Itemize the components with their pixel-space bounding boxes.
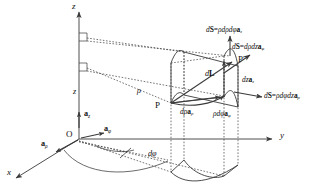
dS-phi-arrow [224, 55, 250, 73]
z-axis-label: z [72, 2, 76, 11]
dz-sub: z [252, 79, 254, 84]
rho-dphi-label: ρdφaφ [213, 110, 231, 119]
dS-phi-label: dS=dρdzaφ [232, 43, 264, 52]
rho-coordinate-label: ρ [137, 87, 141, 95]
y-axis-label: y [280, 131, 284, 140]
dS-rho-scalar: ρdφdz [276, 91, 294, 100]
z-coordinate-label: z [73, 88, 76, 96]
d-rho-sub: ρ [191, 111, 193, 116]
a-phi-vector [81, 133, 104, 138]
figure-canvas: z y x O az aφ aρ z ρ dφ P P′ dL dS=ρdρdφ… [0, 0, 319, 189]
a-z-subscript: z [88, 113, 90, 119]
dS-rho-sub: ρ [298, 95, 300, 100]
dS-z-scalar: ρdρdφ [218, 25, 237, 34]
dS-phi-sub: φ [262, 46, 265, 51]
a-rho-subscript: ρ [45, 143, 48, 149]
top-face-edge-b [171, 56, 224, 63]
point-p-label: P [155, 101, 160, 110]
base-projection-outer [184, 160, 224, 177]
x-axis-label: x [7, 168, 11, 177]
dS-phi-scalar: dρdz [244, 42, 258, 51]
rho-dphi-scalar: ρdφ [213, 109, 224, 118]
a-phi-subscript: φ [108, 128, 111, 134]
base-edge-right [224, 165, 238, 176]
dphi-label: dφ [148, 150, 157, 158]
a-z-label: az [84, 110, 90, 119]
origin-label: O [66, 130, 73, 139]
a-rho-vector [56, 140, 78, 152]
dL-label: dL [205, 70, 215, 78]
point-p-prime-label: P′ [238, 55, 245, 64]
dz-label: dzaz [242, 76, 254, 85]
a-rho-label: aρ [41, 140, 48, 149]
dS-z-sub: z [240, 29, 242, 34]
top-arc-inner [171, 50, 184, 63]
rho-dphi-sub: φ [228, 113, 231, 118]
dS-rho-label: dS=ρdφdzaρ [264, 92, 300, 101]
dL-L: L [209, 69, 214, 78]
dS-z-label: dS=ρdρdφaz [206, 26, 242, 35]
a-phi-label: aφ [104, 125, 111, 134]
d-rho-label: dρaρ [180, 108, 193, 117]
dz-scalar: dz [242, 75, 249, 84]
